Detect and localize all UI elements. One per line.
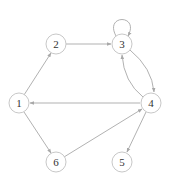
graph-canvas: 1 2 3 4 5 6: [0, 0, 175, 182]
edges: [24, 20, 154, 158]
edge-4-to-3: [122, 55, 143, 97]
node-6-label: 6: [53, 156, 59, 168]
node-6: 6: [46, 152, 66, 172]
node-5: 5: [112, 152, 132, 172]
node-3: 3: [112, 34, 132, 54]
node-2: 2: [46, 34, 66, 54]
node-4-label: 4: [148, 97, 154, 109]
node-2-label: 2: [53, 38, 59, 50]
edge-4-to-5: [127, 112, 146, 152]
edge-6-to-4: [64, 109, 142, 157]
edge-1-to-6: [24, 112, 51, 153]
edge-3-to-4: [130, 50, 154, 92]
node-4: 4: [141, 93, 161, 113]
node-3-label: 3: [119, 38, 125, 50]
edge-1-to-2: [24, 53, 51, 95]
node-5-label: 5: [119, 156, 125, 168]
node-1: 1: [9, 93, 29, 113]
node-1-label: 1: [16, 97, 22, 109]
